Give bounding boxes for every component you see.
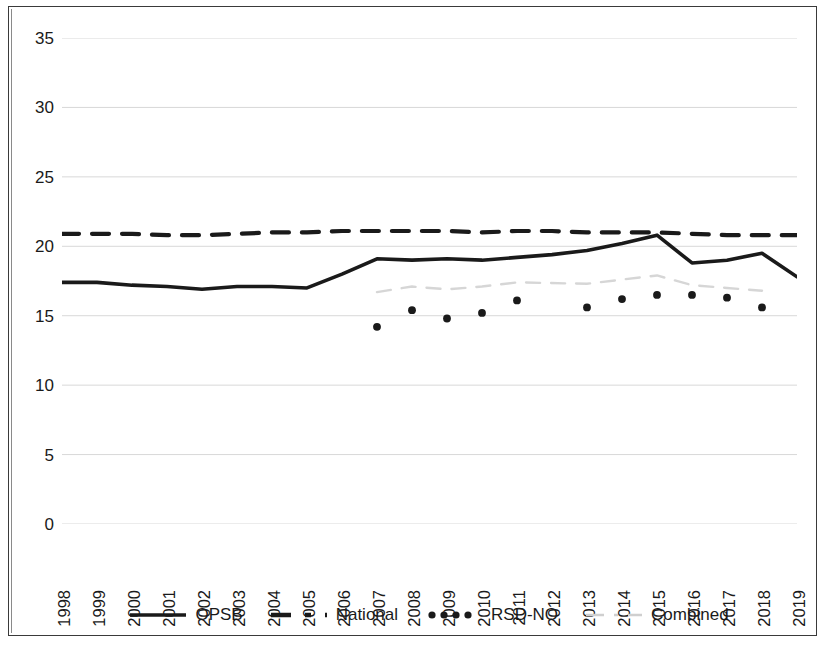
legend-swatch-icon — [426, 608, 482, 622]
data-point — [723, 294, 731, 302]
legend-item: OPSB — [130, 605, 242, 625]
legend-label: OPSB — [195, 605, 242, 625]
x-axis: 1998199920002001200220032004200520062007… — [62, 528, 797, 598]
data-point — [583, 303, 591, 311]
y-axis-tick-label: 0 — [12, 516, 54, 533]
data-point — [478, 309, 486, 317]
series-line — [377, 275, 762, 292]
legend-item: Combined — [586, 605, 729, 625]
y-axis-tick-label: 10 — [12, 377, 54, 394]
y-axis-tick-label: 30 — [12, 99, 54, 116]
legend-label: RSD-NO — [491, 605, 558, 625]
series-line — [62, 231, 797, 235]
data-point — [653, 291, 661, 299]
legend-swatch-icon — [271, 608, 327, 622]
data-point — [443, 315, 451, 323]
data-point — [408, 306, 416, 314]
legend-swatch-icon — [586, 608, 642, 622]
legend-swatch-icon — [130, 608, 186, 622]
y-axis: 05101520253035 — [8, 0, 54, 647]
y-axis-tick-label: 15 — [12, 307, 54, 324]
data-point — [758, 303, 766, 311]
y-axis-tick-label: 5 — [12, 446, 54, 463]
data-point — [688, 291, 696, 299]
chart-legend: OPSBNationalRSD-NOCombined — [62, 598, 797, 632]
chart-canvas — [62, 38, 797, 524]
y-axis-tick-label: 35 — [12, 30, 54, 47]
legend-item: National — [271, 605, 398, 625]
series-line — [62, 235, 797, 289]
legend-label: Combined — [651, 605, 729, 625]
data-point — [373, 323, 381, 331]
legend-label: National — [336, 605, 398, 625]
chart-figure: 05101520253035 1998199920002001200220032… — [0, 0, 825, 647]
plot-area — [62, 38, 797, 524]
data-point — [618, 295, 626, 303]
legend-item: RSD-NO — [426, 605, 558, 625]
y-axis-tick-label: 20 — [12, 238, 54, 255]
data-point — [513, 297, 521, 305]
y-axis-tick-label: 25 — [12, 168, 54, 185]
